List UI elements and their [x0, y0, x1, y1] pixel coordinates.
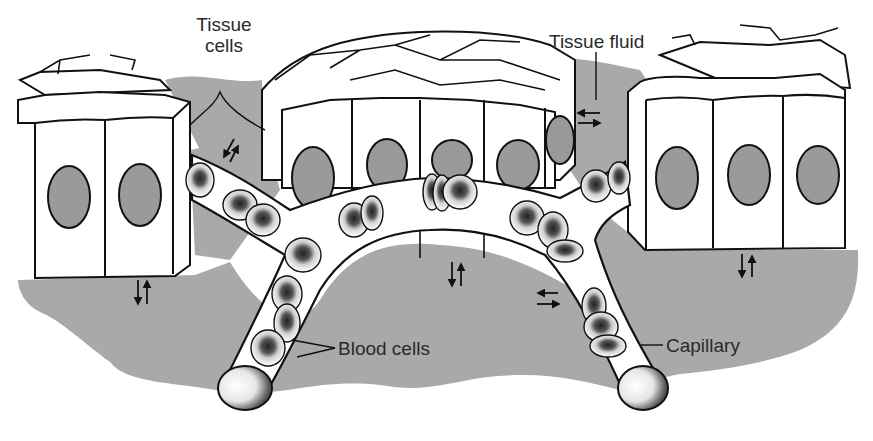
- label-tissue-fluid: Tissue fluid: [549, 31, 644, 52]
- capillary-end-left: [218, 366, 272, 410]
- tissue-cells-right: [628, 25, 850, 250]
- label-tissue-cells: Tissue cells: [194, 14, 254, 56]
- tissue-cells-left: [18, 55, 190, 278]
- label-blood-cells: Blood cells: [338, 338, 430, 359]
- capillary-tissue-diagram: [0, 0, 873, 441]
- label-capillary: Capillary: [666, 335, 740, 356]
- label-tissue-cells-line1: Tissue: [194, 14, 254, 35]
- label-tissue-cells-line2: cells: [194, 35, 254, 56]
- capillary-end-right: [618, 366, 668, 410]
